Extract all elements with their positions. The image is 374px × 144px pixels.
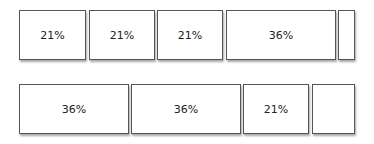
row1-box-3: 21% xyxy=(157,10,223,60)
box-label: 21% xyxy=(264,103,288,116)
row1-box-2: 21% xyxy=(89,10,155,60)
row1-box-5 xyxy=(338,10,355,60)
box-label: 36% xyxy=(174,103,198,116)
row1-box-1: 21% xyxy=(19,10,86,60)
row1-box-4: 36% xyxy=(226,10,336,60)
row2-box-1: 36% xyxy=(19,84,129,134)
row2-box-2: 36% xyxy=(131,84,241,134)
box-label: 21% xyxy=(110,29,134,42)
box-label: 21% xyxy=(40,29,64,42)
row2-box-4 xyxy=(312,84,355,134)
box-label: 36% xyxy=(62,103,86,116)
row2-box-3: 21% xyxy=(243,84,309,134)
box-label: 21% xyxy=(178,29,202,42)
box-label: 36% xyxy=(269,29,293,42)
